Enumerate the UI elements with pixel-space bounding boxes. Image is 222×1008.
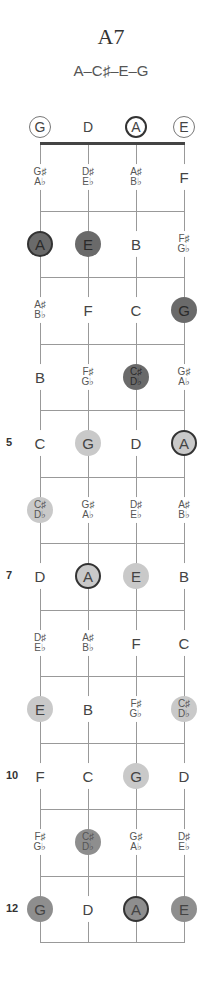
note-label: D♯E♭: [171, 829, 197, 855]
note-label: B: [27, 364, 53, 390]
chord-notes: A–C♯–E–G: [0, 62, 222, 79]
chord-tone-dot: A: [123, 896, 149, 922]
note-name-enharmonic: E♭: [178, 842, 190, 852]
fret-line: [40, 477, 185, 478]
note-label: F: [123, 630, 149, 656]
note-name: E: [131, 569, 141, 584]
fret-line: [40, 942, 185, 943]
note-label: D: [123, 430, 149, 456]
note-name-enharmonic: G♭: [34, 842, 47, 852]
open-string-4: E: [173, 116, 195, 138]
note-label: A♯B♭: [171, 497, 197, 523]
fret-number: 5: [6, 436, 26, 448]
note-label: F♯G♭: [27, 829, 53, 855]
note-label: A♯B♭: [75, 630, 101, 656]
note-name: C: [83, 769, 94, 784]
note-name-enharmonic: A♭: [82, 510, 94, 520]
note-name: B: [131, 237, 141, 252]
note-name: E: [83, 237, 93, 252]
note-name-enharmonic: G♭: [130, 709, 143, 719]
note-name-enharmonic: D♭: [178, 709, 190, 719]
note-name-enharmonic: D♭: [82, 842, 94, 852]
fret-line: [40, 344, 185, 345]
fret-line: [40, 876, 185, 877]
chord-tone-dot: E: [171, 896, 197, 922]
fret-line: [40, 543, 185, 544]
note-name: F: [83, 303, 92, 318]
note-name-enharmonic: D♭: [130, 377, 142, 387]
note-name-enharmonic: E♭: [34, 643, 46, 653]
fret-number: 12: [6, 902, 26, 914]
note-name-enharmonic: E♭: [82, 177, 94, 187]
note-label: F♯G♭: [123, 696, 149, 722]
chord-tone-dot: E: [123, 563, 149, 589]
note-name-enharmonic: E♭: [130, 510, 142, 520]
fret-line: [40, 410, 185, 411]
note-name: D: [179, 769, 190, 784]
note-label: D: [27, 563, 53, 589]
chord-tone-dot: E: [27, 696, 53, 722]
note-name: C: [179, 636, 190, 651]
note-name-enharmonic: B♭: [178, 510, 190, 520]
note-name-enharmonic: B♭: [82, 643, 94, 653]
chord-tone-dot: C♯D♭: [171, 696, 197, 722]
note-label: B: [75, 696, 101, 722]
chord-tone-dot: G: [27, 896, 53, 922]
open-string-1: G: [29, 116, 51, 138]
note-name: G: [178, 303, 190, 318]
note-name: A: [179, 436, 189, 451]
note-label: G♯A♭: [27, 164, 53, 190]
note-label: D: [75, 896, 101, 922]
note-label: D♯E♭: [75, 164, 101, 190]
note-label: D♯E♭: [27, 630, 53, 656]
chord-tone-dot: A: [75, 563, 101, 589]
fret-number: 7: [6, 569, 26, 581]
chord-tone-dot: C♯D♭: [75, 829, 101, 855]
note-name: G: [130, 769, 142, 784]
chord-tone-dot: A: [27, 231, 53, 257]
chord-tone-dot: A: [171, 430, 197, 456]
note-name: A: [35, 237, 45, 252]
nut: [40, 142, 185, 145]
note-name: A: [131, 902, 141, 917]
note-label: C: [171, 630, 197, 656]
note-name-enharmonic: A♭: [34, 177, 46, 187]
note-name: F: [131, 636, 140, 651]
open-string-3: A: [125, 116, 147, 138]
fret-line: [40, 211, 185, 212]
note-name-enharmonic: B♭: [34, 310, 46, 320]
chord-tone-dot: C♯D♭: [27, 497, 53, 523]
note-name: F: [35, 769, 44, 784]
note-label: A♯B♭: [123, 164, 149, 190]
note-name-enharmonic: G♭: [82, 377, 95, 387]
fret-line: [40, 809, 185, 810]
fret-line: [40, 743, 185, 744]
chord-tone-dot: C♯D♭: [123, 364, 149, 390]
note-label: D♯E♭: [123, 497, 149, 523]
fret-line: [40, 610, 185, 611]
note-label: B: [171, 563, 197, 589]
note-name: G: [82, 436, 94, 451]
note-label: G♯A♭: [123, 829, 149, 855]
note-label: B: [123, 231, 149, 257]
note-name: B: [35, 370, 45, 385]
chord-tone-dot: G: [123, 763, 149, 789]
note-name-enharmonic: G♭: [178, 244, 191, 254]
note-name: F: [179, 170, 188, 185]
note-name: B: [179, 569, 189, 584]
note-name-enharmonic: D♭: [34, 510, 46, 520]
note-name: C: [35, 436, 46, 451]
note-label: F: [171, 164, 197, 190]
note-name-enharmonic: A♭: [178, 377, 190, 387]
open-string-2: D: [77, 116, 99, 138]
note-label: C: [75, 763, 101, 789]
note-label: C: [123, 297, 149, 323]
note-label: F♯G♭: [75, 364, 101, 390]
note-label: G♯A♭: [171, 364, 197, 390]
fret-line: [40, 277, 185, 278]
note-label: C: [27, 430, 53, 456]
note-name: E: [179, 902, 189, 917]
note-name-enharmonic: B♭: [130, 177, 142, 187]
note-name: C: [131, 303, 142, 318]
chord-title: A7: [0, 24, 222, 50]
